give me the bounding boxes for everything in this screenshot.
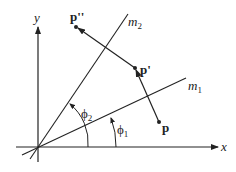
point-p: [157, 120, 161, 124]
x-axis-label: x: [220, 139, 227, 154]
y-axis-label: y: [32, 10, 40, 25]
line-m2-label: m2: [128, 14, 142, 31]
line-m2: [30, 14, 128, 159]
point-p-label: p: [162, 120, 169, 135]
point-p1: [133, 66, 137, 70]
line-m1-label: m1: [188, 78, 202, 95]
angle-phi1-label: ϕ1: [117, 122, 128, 139]
angle-arc-phi1: [111, 118, 116, 147]
line-m1: [22, 78, 186, 155]
point-p2: [74, 25, 78, 29]
segment-p-to-p1: [136, 70, 159, 122]
diagram-canvas: x y m1 m2 p p' p'' ϕ2 ϕ1: [0, 0, 236, 172]
angle-phi2-label: ϕ2: [81, 106, 92, 123]
point-p2-label: p'': [70, 9, 84, 24]
reflection-diagram: x y m1 m2 p p' p'' ϕ2 ϕ1: [0, 0, 236, 172]
point-p1-label: p': [140, 62, 151, 77]
segment-p1-to-p2: [78, 28, 135, 68]
